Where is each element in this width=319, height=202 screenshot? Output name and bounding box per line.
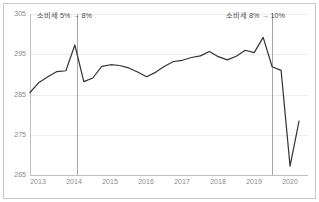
x-tick-label-2016: 2016 [126,178,166,186]
annotation-line-tax-hike-2019 [272,14,273,175]
x-axis-line [30,175,308,176]
x-tick-label-2018: 2018 [198,178,238,186]
gridline-295 [30,54,308,55]
chart-frame [3,3,316,199]
y-tick-label-275: 275 [4,131,26,139]
y-tick-label-285: 285 [4,91,26,99]
x-tick-label-2015: 2015 [90,178,130,186]
annotation-line-tax-hike-2014 [77,14,78,175]
y-axis-line [30,14,31,175]
y-tick-label-305: 305 [4,10,26,18]
x-tick-label-2013: 2013 [18,178,58,186]
y-tick-label-295: 295 [4,50,26,58]
gridline-285 [30,95,308,96]
x-tick-label-2019: 2019 [234,178,274,186]
x-tick-label-2020: 2020 [270,178,310,186]
x-tick-label-2017: 2017 [162,178,202,186]
annotation-label-tax-hike-2014: 소비세 5% → 8% [37,11,92,20]
gridline-275 [30,135,308,136]
annotation-label-tax-hike-2019: 소비세 8% → 10% [226,11,285,20]
chart-screenshot: 305 295 285 275 265 2013 2014 2015 2016 … [0,0,319,202]
x-tick-label-2014: 2014 [54,178,94,186]
